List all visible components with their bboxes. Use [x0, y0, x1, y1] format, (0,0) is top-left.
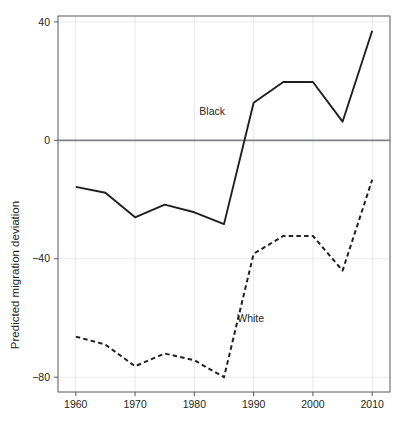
x-tick-label: 1960	[64, 398, 88, 410]
x-axis-tick-labels: 196019701980199020002010	[64, 398, 384, 410]
series-line-black	[76, 31, 372, 224]
series-annotation-white: White	[237, 312, 264, 324]
x-tick-label: 1990	[242, 398, 266, 410]
y-axis-tick-labels: 400−40−80	[32, 16, 50, 383]
axis-ticks	[54, 22, 372, 396]
y-axis-title: Predicted migration deviation	[9, 201, 21, 349]
line-chart: 196019701980199020002010 400−40−80 Black…	[0, 0, 410, 433]
series-annotation-black: Black	[199, 105, 225, 117]
data-series-layer	[76, 31, 372, 377]
plot-frame	[58, 16, 390, 392]
y-tick-label: −80	[32, 371, 50, 383]
y-tick-label: 40	[38, 16, 50, 28]
series-annotations: BlackWhite	[199, 105, 264, 324]
y-tick-label: 0	[44, 134, 50, 146]
x-tick-label: 2000	[301, 398, 325, 410]
grid-lines	[58, 16, 390, 392]
x-tick-label: 1980	[183, 398, 207, 410]
x-tick-label: 1970	[123, 398, 147, 410]
plot-border	[58, 16, 390, 392]
series-line-white	[76, 180, 372, 377]
x-tick-label: 2010	[361, 398, 385, 410]
y-tick-label: −40	[32, 252, 50, 264]
chart-figure: 196019701980199020002010 400−40−80 Black…	[0, 0, 410, 433]
